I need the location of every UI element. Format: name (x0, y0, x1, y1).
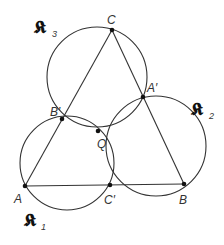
point-b-prime (60, 117, 65, 122)
point-a (23, 184, 28, 189)
edge-ab (25, 184, 184, 186)
point-q (96, 129, 101, 134)
miquel-diagram: A B C A′ B′ C′ Q 𝕶 3 𝕶 2 𝕶 1 (0, 0, 224, 245)
point-a-prime (141, 95, 146, 100)
label-k2-subscript: 2 (208, 111, 214, 121)
label-k1-subscript: 1 (41, 222, 46, 232)
label-k1: 𝕶 (23, 210, 37, 230)
label-a: A (13, 192, 22, 206)
label-k3-subscript: 3 (52, 29, 57, 39)
label-b: B (179, 193, 187, 207)
diagram-canvas: A B C A′ B′ C′ Q 𝕶 3 𝕶 2 𝕶 1 (0, 0, 224, 245)
label-c-prime: C′ (104, 193, 116, 207)
label-a-prime: A′ (146, 81, 158, 95)
edge-ca (25, 30, 112, 186)
label-q: Q (97, 137, 106, 151)
point-b (182, 182, 187, 187)
label-c: C (107, 13, 116, 27)
edge-bc (112, 30, 184, 184)
point-c-prime (108, 183, 113, 188)
label-k3: 𝕶 (33, 17, 47, 37)
label-b-prime: B′ (50, 105, 61, 119)
label-k2: 𝕶 (190, 99, 204, 119)
point-c (110, 28, 115, 33)
circle-k3 (47, 27, 147, 127)
